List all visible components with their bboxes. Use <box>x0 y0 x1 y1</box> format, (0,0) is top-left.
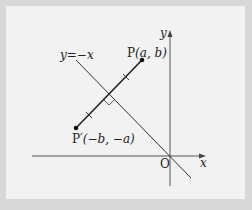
y-axis-arrow-icon <box>168 30 173 37</box>
line-y-equals-neg-x <box>76 60 191 178</box>
right-angle-mark <box>104 100 114 105</box>
point-p-prime-label: P′(−b, −a) <box>72 132 135 146</box>
line-label: y=−x <box>59 48 94 62</box>
y-axis-label: y <box>159 26 167 40</box>
x-axis-label: x <box>200 156 207 170</box>
point-p-prime <box>74 126 79 131</box>
reflection-diagram: y=−x P(a, b) P′(−b, −a) O x y <box>0 0 252 210</box>
origin-label: O <box>160 157 170 171</box>
point-p-label: P(a, b) <box>127 46 167 60</box>
